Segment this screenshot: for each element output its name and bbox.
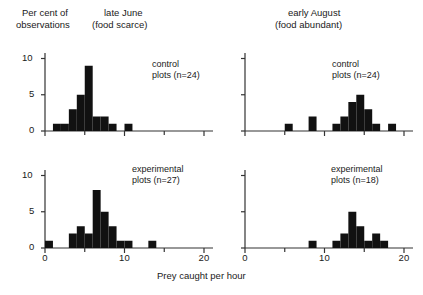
y-tick-label-5-top: 5 (29, 89, 34, 100)
histogram-bar (332, 124, 340, 131)
y-tick-label-10-bottom: 10 (22, 170, 33, 181)
histogram-bar (309, 117, 317, 132)
y-tick-label-0-bottom: 0 (29, 242, 34, 253)
x-tick-label-10-bottom-left: 10 (119, 253, 130, 264)
figure-histograms-prey-caught: Per cent of observations late June (food… (0, 0, 423, 295)
plots-svg (0, 0, 423, 295)
y-tick-label-0-top: 0 (29, 125, 34, 136)
histogram-bar (61, 124, 69, 131)
histogram-bar (93, 190, 101, 248)
histogram-bar (372, 124, 380, 131)
histogram-bar (364, 241, 372, 248)
histogram-bar (388, 124, 396, 131)
histogram-bar (85, 66, 93, 131)
histogram-bar (340, 234, 348, 249)
histogram-bar (380, 241, 388, 248)
histogram-panel-top-left (41, 53, 213, 136)
histogram-bar (109, 226, 117, 248)
histogram-bar (45, 241, 53, 248)
histogram-bar (101, 117, 109, 132)
histogram-bar (285, 124, 293, 131)
histogram-bar (372, 234, 380, 249)
histogram-bar (348, 212, 356, 248)
histogram-bar (53, 124, 61, 131)
histogram-bar (85, 234, 93, 249)
histogram-bar (356, 226, 364, 248)
histogram-bar (364, 109, 372, 131)
histogram-bar (348, 102, 356, 131)
histogram-bar (117, 241, 125, 248)
histogram-bar (332, 241, 340, 248)
histogram-bar (356, 95, 364, 131)
histogram-bar (69, 109, 77, 131)
histogram-bar (125, 241, 133, 248)
x-tick-label-0-bottom-left: 0 (42, 253, 47, 264)
histogram-bar (125, 124, 133, 131)
x-tick-label-0-bottom-right: 0 (242, 253, 247, 264)
histogram-bar (109, 124, 117, 131)
x-tick-label-10-bottom-right: 10 (319, 253, 330, 264)
histogram-bar (77, 226, 85, 248)
histogram-bar (340, 117, 348, 132)
y-tick-label-10-top: 10 (22, 53, 33, 64)
histogram-panel-bottom-left (41, 170, 213, 253)
x-tick-label-20-bottom-right: 20 (399, 253, 410, 264)
histogram-panel-top-right (241, 53, 413, 136)
histogram-bar (77, 95, 85, 131)
histogram-bar (69, 234, 77, 249)
histogram-bar (101, 212, 109, 248)
y-tick-label-5-bottom: 5 (29, 206, 34, 217)
histogram-bar (148, 241, 156, 248)
histogram-panel-bottom-right (241, 170, 413, 253)
histogram-bar (93, 117, 101, 132)
histogram-bar (309, 241, 317, 248)
x-tick-label-20-bottom-left: 20 (199, 253, 210, 264)
